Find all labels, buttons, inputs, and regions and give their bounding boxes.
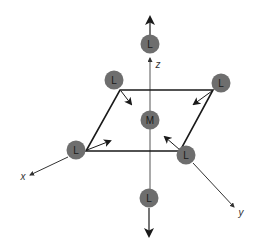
x-axis-line [30, 157, 68, 175]
octahedral-complex-diagram: M L L L L L L z x y [0, 0, 255, 252]
ligand-label: L [147, 39, 153, 50]
ligand-label: L [111, 75, 117, 86]
y-axis-label: y [238, 207, 245, 218]
ligand-lower-right: L [177, 146, 196, 165]
metal-atom: M [141, 111, 160, 130]
y-axis-line [193, 163, 234, 207]
lower-right-displacement-arrow [165, 137, 180, 150]
diagram-canvas: M L L L L L L z x y [0, 0, 255, 252]
ligand-lower-left: L [67, 141, 86, 160]
metal-label: M [146, 115, 154, 126]
ligand-upper-left: L [105, 71, 124, 90]
ligand-label: L [73, 145, 79, 156]
upper-left-displacement-arrow [121, 91, 131, 104]
ligand-label: L [183, 150, 189, 161]
z-axis-label: z [155, 59, 161, 70]
ligand-top: L [141, 35, 160, 54]
x-axis-label: x [20, 171, 27, 182]
ligand-bottom: L [140, 189, 159, 208]
ligand-upper-right: L [212, 74, 231, 93]
ligand-label: L [218, 78, 224, 89]
ligand-label: L [146, 193, 152, 204]
